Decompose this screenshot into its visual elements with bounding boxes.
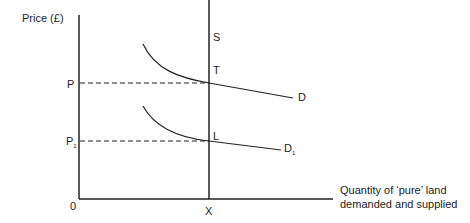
point-t-label: T [213,64,220,76]
supply-label: S [213,31,220,43]
y-axis-label: Price (£) [22,12,64,24]
origin-label: 0 [70,200,76,212]
price-p1-label: P1 [66,135,77,152]
demand-d1-label: D1 [284,142,295,159]
point-l-label: L [213,130,219,142]
demand-curve-d1 [143,106,281,150]
x-axis-label-line1: Quantity of ‘pure’ land [340,184,447,196]
demand-d-label: D [298,91,306,103]
quantity-x-label: X [205,205,212,217]
x-axis-label-line2: demanded and supplied [340,198,457,210]
price-p-label: P [67,78,74,90]
